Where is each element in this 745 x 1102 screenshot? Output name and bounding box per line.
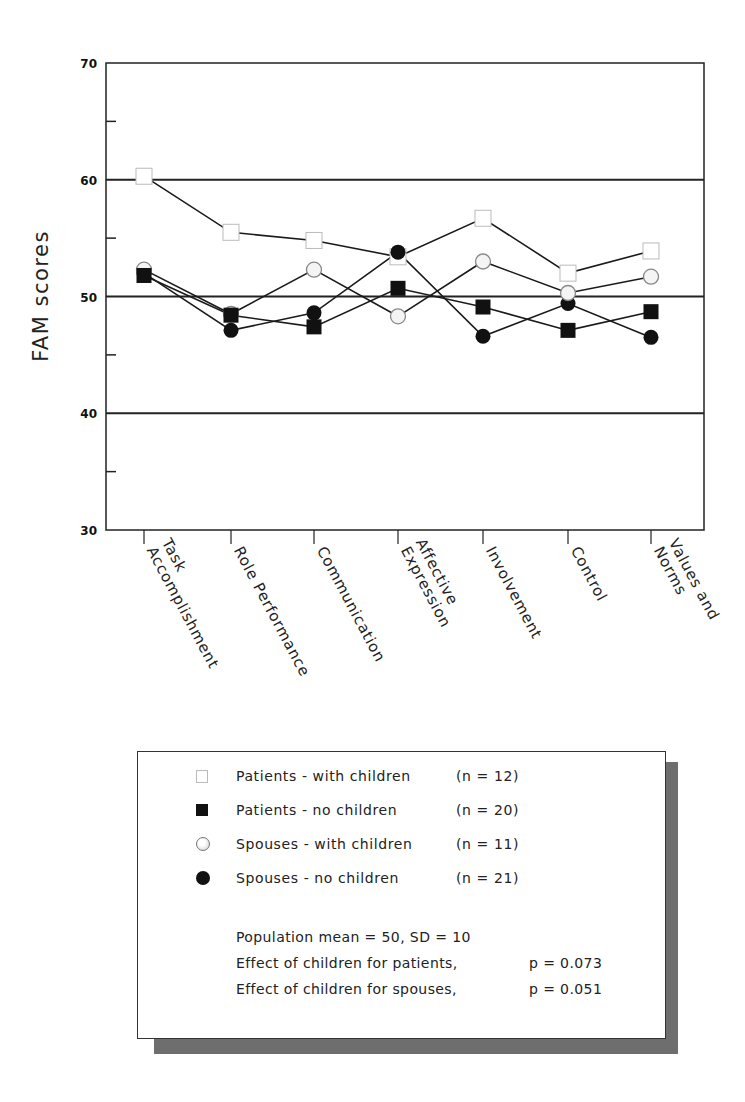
y-tick-label: 30 [80,524,97,538]
x-category-label-line: Involvement [482,543,546,642]
open-square-icon [223,224,239,240]
open-circle-icon [196,837,210,851]
legend-item-patients-with-children: Patients - with children (n = 12) [138,764,665,788]
filled-circle-icon [644,330,659,345]
legend-item-spouses-with-children: Spouses - with children (n = 11) [138,832,665,856]
filled-square-icon [224,308,239,323]
legend-label: Spouses - no children [236,870,399,886]
fam-line-chart: FAM scores 3040506070 TaskAccomplishment… [0,0,745,740]
open-square-icon [560,265,576,281]
y-tick-label: 50 [80,291,97,305]
filled-square-icon [307,319,322,334]
legend-label: Patients - with children [236,768,411,784]
y-axis-label: FAM scores [29,230,53,362]
filled-square-icon [561,323,576,338]
patients-effect-note: Effect of children for patients, [236,955,458,971]
legend-n: (n = 21) [456,870,519,886]
x-category-label: TaskAccomplishment [142,534,237,671]
legend-item-patients-no-children: Patients - no children (n = 20) [138,798,665,822]
filled-circle-icon [476,329,491,344]
series-markers [136,168,659,345]
legend-n: (n = 12) [456,768,519,784]
spouses-p-value: p = 0.051 [529,981,602,997]
open-circle-icon [391,309,406,324]
x-category-label: Involvement [482,543,546,642]
open-circle-icon [307,262,322,277]
x-category-label: Values andNorms [650,535,723,631]
filled-circle-icon [391,245,406,260]
filled-circle-icon [224,323,239,338]
open-square-icon [196,770,208,783]
x-category-label-line: Role Performance [230,543,314,679]
x-ticks [144,530,651,544]
x-category-label: Communication [313,543,389,665]
open-square-icon [306,232,322,248]
x-category-label-line: Communication [313,543,389,665]
legend-item-spouses-no-children: Spouses - no children (n = 21) [138,866,665,890]
filled-square-icon [476,300,491,315]
legend-box: Patients - with children (n = 12) Patien… [137,751,666,1039]
x-category-label: Control [567,543,611,604]
filled-square-icon [137,268,152,283]
x-category-label-line: Control [567,543,611,604]
open-circle-icon [476,254,491,269]
patients-p-value: p = 0.073 [529,955,602,971]
open-square-icon [136,168,152,184]
filled-circle-icon [196,871,210,885]
y-axis-title: FAM scores [29,230,53,362]
legend-n: (n = 20) [456,802,519,818]
open-square-icon [475,210,491,226]
y-tick-labels: 3040506070 [80,57,97,538]
y-tick-label: 40 [80,407,97,421]
open-square-icon [643,243,659,259]
x-category-label: Role Performance [230,543,314,679]
spouses-effect-note: Effect of children for spouses, [236,981,457,997]
open-circle-icon [644,269,659,284]
legend-label: Patients - no children [236,802,397,818]
open-circle-icon [561,285,576,300]
x-category-label: AffectiveExpression [397,535,470,630]
y-tick-label: 70 [80,57,97,71]
x-category-labels: TaskAccomplishmentRole PerformanceCommun… [142,534,723,679]
filled-square-icon [391,281,406,296]
filled-square-icon [644,304,659,319]
legend-label: Spouses - with children [236,836,413,852]
population-note: Population mean = 50, SD = 10 [236,929,471,945]
y-tick-label: 60 [80,174,97,188]
filled-circle-icon [307,305,322,320]
legend-n: (n = 11) [456,836,519,852]
filled-square-icon [196,804,208,816]
